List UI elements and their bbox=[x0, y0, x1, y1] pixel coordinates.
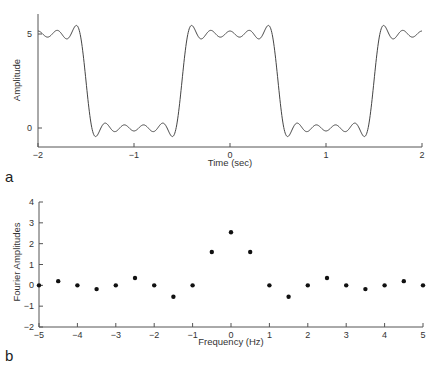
data-point bbox=[56, 279, 60, 283]
x-tick-label: 2 bbox=[419, 150, 424, 160]
data-point bbox=[344, 283, 348, 287]
x-tick-label: −2 bbox=[149, 330, 159, 340]
x-tick-label: −1 bbox=[187, 330, 197, 340]
data-point bbox=[133, 276, 137, 280]
y-axis-label: Fourier Amplitudes bbox=[11, 222, 22, 301]
data-point bbox=[421, 283, 425, 287]
data-point bbox=[190, 283, 194, 287]
y-tick-label: −1 bbox=[24, 301, 34, 311]
y-tick-label: 0 bbox=[29, 280, 34, 290]
panel-label-a: a bbox=[5, 168, 14, 185]
data-point bbox=[229, 230, 233, 234]
x-tick-label: 1 bbox=[323, 150, 328, 160]
data-point bbox=[114, 283, 118, 287]
y-tick-label: 3 bbox=[29, 218, 34, 228]
x-tick-label: 3 bbox=[344, 330, 349, 340]
data-point bbox=[363, 287, 367, 291]
x-tick-label: −2 bbox=[33, 150, 43, 160]
x-tick-label: −1 bbox=[129, 150, 139, 160]
data-point bbox=[325, 276, 329, 280]
time-domain-plot: −2−101205 Time (sec) Amplitude a bbox=[5, 14, 425, 185]
square-wave-curve bbox=[38, 25, 422, 136]
x-tick-label: −5 bbox=[34, 330, 44, 340]
data-point bbox=[248, 250, 252, 254]
y-tick-label: 0 bbox=[27, 123, 32, 133]
x-tick-label: −3 bbox=[111, 330, 121, 340]
data-point bbox=[171, 295, 175, 299]
x-axis-label: Time (sec) bbox=[208, 157, 253, 168]
data-point bbox=[306, 283, 310, 287]
x-tick-label: 5 bbox=[420, 330, 425, 340]
data-point bbox=[94, 287, 98, 291]
y-axis-label: Amplitude bbox=[11, 59, 22, 101]
data-point bbox=[286, 295, 290, 299]
data-point bbox=[267, 283, 271, 287]
data-point bbox=[152, 283, 156, 287]
panel-label-b: b bbox=[5, 347, 13, 364]
x-tick-label: 4 bbox=[382, 330, 387, 340]
data-point bbox=[210, 250, 214, 254]
figure: −2−101205 Time (sec) Amplitude a −5−4−3−… bbox=[0, 0, 440, 375]
frequency-domain-plot: −5−4−3−2−1012345−2−101234 Frequency (Hz)… bbox=[5, 197, 426, 364]
data-point bbox=[402, 279, 406, 283]
y-tick-label: 4 bbox=[29, 197, 34, 207]
y-tick-label: 5 bbox=[27, 29, 32, 39]
x-axis-label: Frequency (Hz) bbox=[198, 336, 263, 347]
y-tick-label: 2 bbox=[29, 239, 34, 249]
y-tick-label: −2 bbox=[24, 322, 34, 332]
fourier-amplitude-points bbox=[37, 230, 425, 299]
data-point bbox=[75, 283, 79, 287]
x-tick-label: −4 bbox=[72, 330, 82, 340]
y-tick-label: 1 bbox=[29, 260, 34, 270]
data-point bbox=[382, 283, 386, 287]
data-point bbox=[37, 283, 41, 287]
x-tick-label: 1 bbox=[267, 330, 272, 340]
x-tick-label: 2 bbox=[305, 330, 310, 340]
